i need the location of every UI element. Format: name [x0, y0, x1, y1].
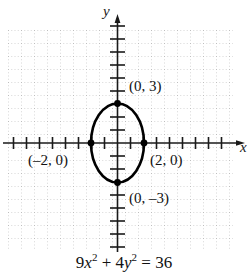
point-label-left-vertex: (–2, 0)	[28, 153, 68, 168]
point-neg2-0	[88, 140, 95, 147]
equation-plus: +	[97, 253, 115, 272]
plot-canvas	[0, 0, 248, 278]
point-0-3	[114, 100, 121, 107]
equation-coef-y: 4	[116, 253, 125, 272]
equation-caption: 9x2 + 4y2 = 36	[0, 253, 248, 273]
grid	[8, 30, 233, 251]
point-0-neg3	[114, 179, 121, 186]
ellipse-graph-figure: y x (0, 3) (–2, 0) (2, 0) (0, –3) 9x2 + …	[0, 0, 248, 278]
point-label-right-vertex: (2, 0)	[150, 153, 183, 168]
point-2-0	[141, 140, 148, 147]
point-label-top-vertex: (0, 3)	[129, 79, 162, 94]
point-label-bottom-vertex: (0, –3)	[129, 191, 169, 206]
equation-var-x: x	[84, 253, 92, 272]
equation-equals: =	[137, 253, 155, 272]
x-axis-label: x	[240, 140, 247, 155]
y-axis-label: y	[103, 4, 110, 19]
equation-var-y: y	[124, 253, 132, 272]
y-axis-arrow	[115, 14, 121, 23]
equation-rhs: 36	[155, 253, 172, 272]
